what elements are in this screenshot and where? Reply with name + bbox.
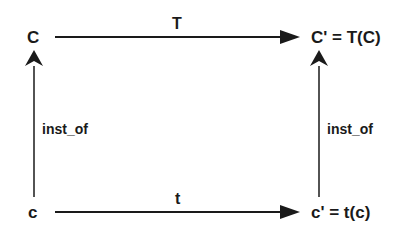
node-c-prime: c' = t(c) (311, 204, 370, 221)
arrow-top-T (55, 30, 300, 44)
edge-label-t: t (175, 191, 180, 207)
arrow-left-inst-of (25, 50, 43, 197)
arrow-bottom-t (55, 205, 300, 219)
arrow-right-inst-of (310, 50, 328, 197)
commutative-diagram: C C' = T(C) c c' = t(c) T t inst_of inst… (0, 0, 420, 237)
edge-label-inst-of-left: inst_of (42, 122, 88, 136)
edge-label-inst-of-right: inst_of (327, 122, 373, 136)
node-C: C (27, 29, 39, 46)
edge-label-T: T (172, 16, 182, 32)
node-c: c (28, 204, 37, 221)
node-C-prime: C' = T(C) (311, 29, 381, 46)
